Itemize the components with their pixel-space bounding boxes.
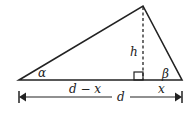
label-alpha: α <box>38 66 46 80</box>
right-arrowhead <box>175 93 182 102</box>
triangle-diagram: α β h d − x x d <box>0 0 196 118</box>
right-angle-marker <box>134 72 143 80</box>
label-h: h <box>130 45 138 59</box>
left-arrowhead <box>19 93 26 102</box>
label-d: d <box>117 90 125 104</box>
label-x: x <box>158 82 165 96</box>
label-beta: β <box>161 67 169 81</box>
label-d-minus-x: d − x <box>69 82 101 96</box>
